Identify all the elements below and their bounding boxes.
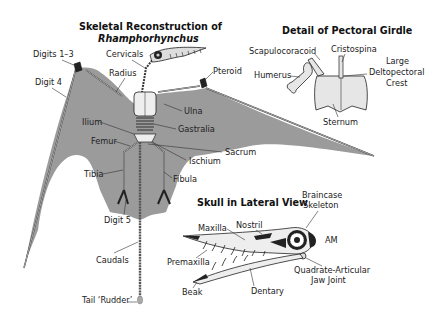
main-title-line2: Rhamphorhynchus — [98, 33, 199, 44]
leader-digits-1-3 — [62, 60, 76, 66]
label-braincase-line1: Braincase — [302, 190, 342, 200]
leader-digit-4 — [52, 88, 66, 97]
premaxilla-tip — [183, 236, 200, 240]
cristospina-bone — [339, 56, 343, 78]
label-ilium: Ilium — [82, 117, 102, 127]
leader-pteroid — [205, 72, 213, 80]
cervical-vertebrae — [142, 58, 154, 92]
label-humerus: Humerus — [254, 70, 291, 80]
main-title-line1: Skeletal Reconstruction of — [79, 21, 223, 32]
label-scapulocoracoid: Scapulocoracoid — [249, 46, 316, 56]
label-tibia: Tibia — [83, 169, 104, 179]
tail-rudder — [137, 296, 142, 304]
pectoral-title: Detail of Pectoral Girdle — [282, 25, 413, 36]
label-deltopectoral-line2: Deltopectoral — [369, 67, 424, 77]
leader-radius — [116, 78, 125, 92]
label-pteroid: Pteroid — [213, 66, 242, 76]
label-digits-1-3: Digits 1–3 — [33, 49, 74, 59]
diagram-canvas: Skeletal Reconstruction of Rhamphorhynch… — [0, 0, 440, 327]
label-femur: Femur — [91, 136, 117, 146]
label-dentary: Dentary — [251, 286, 284, 296]
pectoral-girdle-figure — [287, 56, 367, 112]
label-braincase-line2: Skeleton — [303, 200, 338, 210]
label-gastralia: Gastralia — [178, 124, 215, 134]
pelvis — [134, 134, 156, 142]
label-nostril: Nostril — [236, 220, 263, 230]
leader-dentary — [250, 268, 254, 286]
label-digit-5: Digit 5 — [104, 215, 131, 225]
skull-title: Skull in Lateral View — [197, 197, 308, 208]
label-quadrate-line2: Jaw Joint — [310, 275, 347, 285]
label-ischium: Ischium — [189, 156, 221, 166]
leader-scapulocoracoid — [314, 53, 320, 60]
leader-cervicals — [132, 60, 145, 68]
label-sternum: Sternum — [323, 117, 358, 127]
label-am: AM — [325, 235, 338, 245]
main-skull-orbit-inner — [156, 53, 159, 56]
label-ulna: Ulna — [184, 106, 202, 116]
label-digit-4: Digit 4 — [35, 77, 62, 87]
leader-braincase — [306, 211, 318, 228]
label-radius: Radius — [109, 68, 136, 78]
label-beak: Beak — [182, 287, 203, 297]
label-quadrate-line1: Quadrate-Articular — [294, 265, 371, 275]
leader-caudals — [114, 242, 138, 253]
label-cristospina: Cristospina — [331, 44, 377, 54]
label-tail-rudder: Tail ‘Rudder’ — [81, 295, 132, 305]
skull-lateral-figure — [183, 228, 316, 285]
label-fibula: Fibula — [173, 174, 197, 184]
digit-4-bone-inner — [24, 68, 76, 268]
label-deltopectoral-line3: Crest — [386, 78, 408, 88]
label-caudals: Caudals — [96, 255, 129, 265]
label-maxilla: Maxilla — [198, 223, 227, 233]
label-sacrum: Sacrum — [225, 147, 256, 157]
label-cervicals: Cervicals — [106, 49, 143, 59]
pteroid-claw — [200, 78, 207, 88]
label-premaxilla: Premaxilla — [167, 257, 210, 267]
label-deltopectoral-line1: Large — [386, 56, 409, 66]
orbit-center — [294, 237, 300, 243]
